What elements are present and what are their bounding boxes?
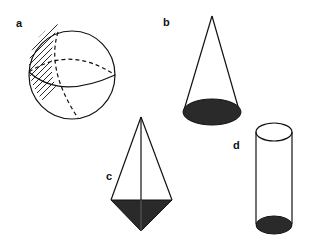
panel-a: a [16, 0, 142, 122]
cylinder-shape [256, 123, 292, 234]
panel-a-label: a [16, 17, 23, 29]
sphere-hatching [20, 0, 142, 122]
panel-b-label: b [163, 16, 170, 28]
cylinder-base-filled [256, 216, 292, 234]
sphere-outline [29, 31, 115, 119]
sphere-equator-back [29, 59, 115, 75]
sphere-shape [20, 0, 142, 122]
cylinder-top [256, 123, 292, 141]
panel-b: b [163, 16, 241, 125]
diagram-canvas: a b [0, 0, 309, 247]
panel-d-label: d [233, 139, 240, 151]
cone-shape [183, 16, 241, 125]
sphere-meridian [55, 32, 78, 118]
pyramid-shape [111, 117, 172, 231]
cone-base-filled [183, 99, 241, 125]
panel-c: c [106, 117, 172, 231]
panel-c-label: c [106, 170, 112, 182]
panel-d: d [233, 123, 292, 234]
sphere-equator-front [29, 72, 115, 87]
